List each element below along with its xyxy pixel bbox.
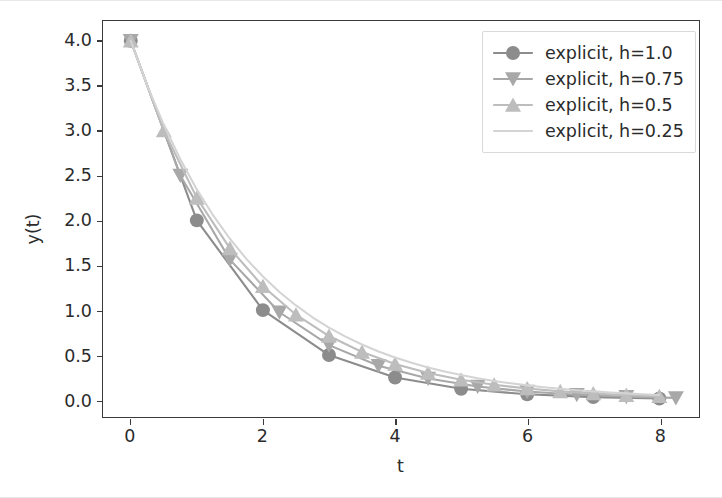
data-point-marker xyxy=(190,213,204,227)
y-tick-mark xyxy=(97,356,103,357)
x-tick-mark xyxy=(661,419,662,425)
y-tick-label: 0.5 xyxy=(64,346,92,366)
x-axis-label: t xyxy=(0,456,722,476)
matplotlib-figure: y(t) t 0.00.51.01.52.02.53.03.54.0 02468… xyxy=(0,0,722,498)
data-point-marker xyxy=(256,303,270,317)
legend-swatch xyxy=(492,42,534,64)
x-axis-label-text: t xyxy=(397,456,404,476)
legend: explicit, h=1.0explicit, h=0.75explicit,… xyxy=(482,31,696,153)
x-tick-label: 2 xyxy=(257,426,268,446)
legend-item-2: explicit, h=0.5 xyxy=(492,92,684,118)
y-tick-mark xyxy=(97,221,103,222)
y-tick-label: 2.5 xyxy=(64,165,92,185)
legend-swatch xyxy=(492,68,534,90)
legend-marker xyxy=(506,46,520,60)
legend-label: explicit, h=0.25 xyxy=(545,121,684,141)
y-tick-label: 2.0 xyxy=(64,210,92,230)
y-tick-label: 4.0 xyxy=(64,30,92,50)
legend-label: explicit, h=0.75 xyxy=(545,69,684,89)
legend-item-0: explicit, h=1.0 xyxy=(492,40,684,66)
y-axis-label: y(t) xyxy=(23,214,43,245)
legend-label: explicit, h=1.0 xyxy=(545,43,673,63)
legend-item-1: explicit, h=0.75 xyxy=(492,66,684,92)
y-tick-mark xyxy=(97,266,103,267)
legend-label: explicit, h=0.5 xyxy=(545,95,673,115)
x-tick-label: 6 xyxy=(522,426,533,446)
y-tick-label: 0.0 xyxy=(64,391,92,411)
legend-item-3: explicit, h=0.25 xyxy=(492,118,684,144)
x-tick-mark xyxy=(395,419,396,425)
y-tick-label: 1.5 xyxy=(64,255,92,275)
y-tick-mark xyxy=(97,40,103,41)
y-tick-mark xyxy=(97,130,103,131)
x-tick-label: 4 xyxy=(389,426,400,446)
x-tick-mark xyxy=(130,419,131,425)
data-point-marker xyxy=(222,241,238,255)
x-tick-label: 0 xyxy=(124,426,135,446)
x-tick-label: 8 xyxy=(655,426,666,446)
y-tick-mark xyxy=(97,85,103,86)
y-tick-mark xyxy=(97,311,103,312)
x-tick-mark xyxy=(263,419,264,425)
y-tick-label: 3.5 xyxy=(64,75,92,95)
x-tick-mark xyxy=(528,419,529,425)
y-tick-label: 3.0 xyxy=(64,120,92,140)
legend-swatch xyxy=(492,94,534,116)
data-point-marker xyxy=(388,371,402,385)
legend-swatch xyxy=(492,120,534,142)
y-tick-label: 1.0 xyxy=(64,301,92,321)
y-tick-mark xyxy=(97,176,103,177)
y-tick-mark xyxy=(97,401,103,402)
